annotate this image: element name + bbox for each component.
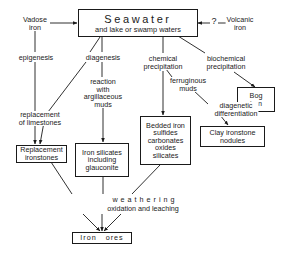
seawater-subtitle: and lake or swamp waters (95, 25, 181, 34)
vadose-iron-label: Vadose iron (22, 16, 48, 31)
ferruginous-muds-label: ferruginous muds (169, 77, 207, 92)
chemical-precipitation-label: chemical precipitation (143, 55, 184, 70)
reaction-muds-label: reaction with argillaceous muds (83, 78, 123, 108)
question-mark-label: ? (210, 18, 217, 26)
bedded-iron-box: Bedded iron sulfides carbonates oxides s… (140, 116, 191, 165)
diagenesis-label: diagenesis (85, 54, 121, 62)
seawater-title: Seawater (104, 13, 171, 25)
biochemical-precipitation-label: biochemical precipitation (206, 55, 247, 70)
iron-ores-box: Iron ores (72, 232, 132, 244)
replacement-limestones-label: replacement of limestones (18, 111, 62, 126)
epigenesis-label: epigenesis (18, 54, 54, 62)
clay-ironstone-box: Clay ironstone nodules (200, 126, 265, 147)
iron-silicates-box: Iron silicates including glauconite (75, 143, 129, 177)
seawater-box: Seawater and lake or swamp waters (78, 9, 198, 37)
replacement-ironstones-box: Replacement ironstones (16, 145, 67, 163)
volcanic-iron-label: Volcanic iron (226, 16, 255, 31)
diagenetic-differentiation-label: diagenetic differentiation (213, 102, 258, 117)
oxidation-leaching-label: oxidation and leaching (106, 205, 180, 213)
weathering-label: weathering (111, 196, 178, 204)
